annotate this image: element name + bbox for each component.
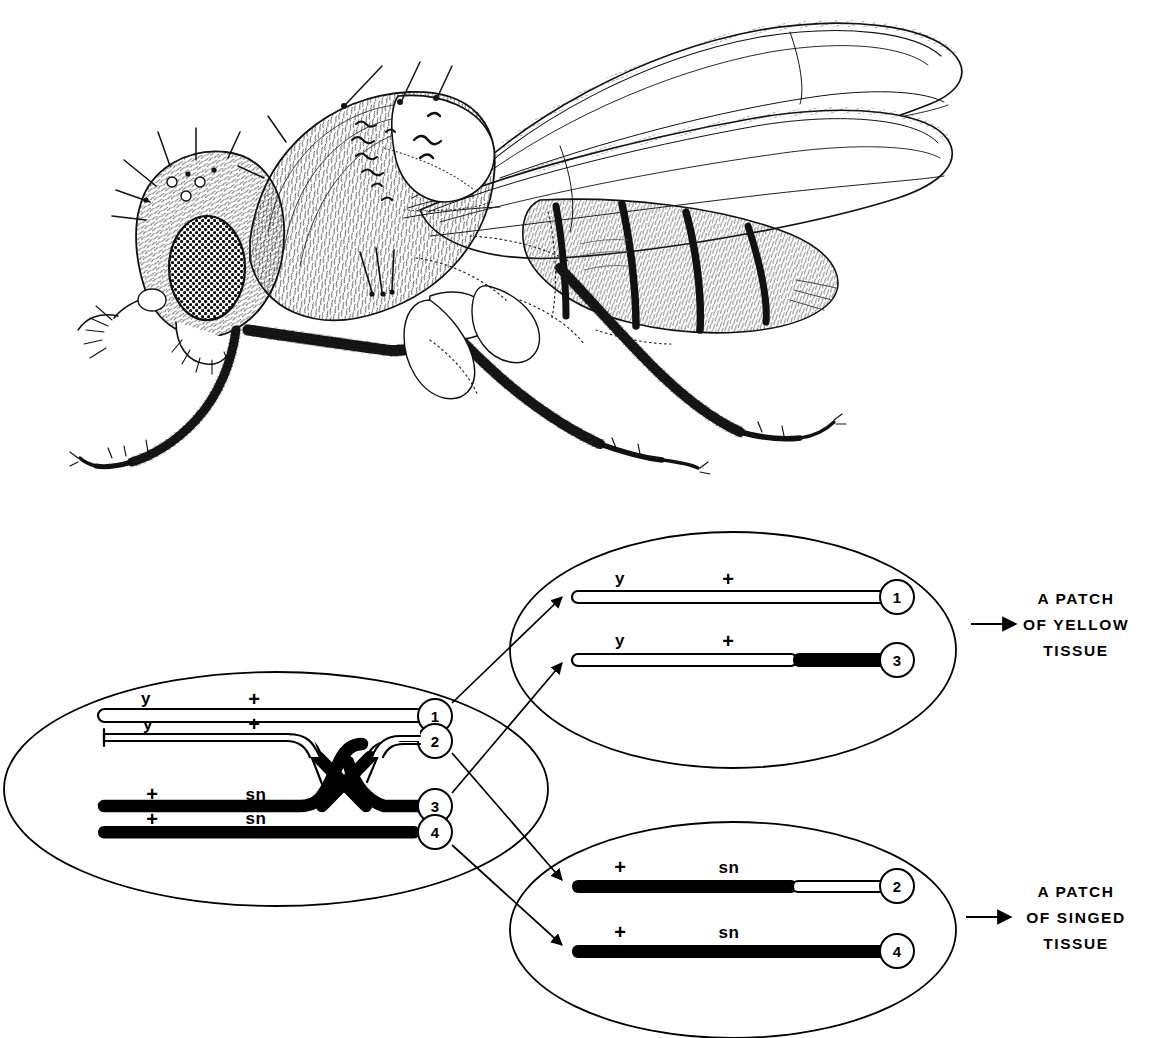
parent-chromatid-number-2: 2	[431, 733, 439, 750]
singed-daughter-number-4: 4	[893, 943, 902, 960]
parent-marker-4-right: sn	[246, 809, 267, 828]
parent-marker-1-left: y	[141, 689, 151, 708]
figure-canvas: 1 2 3 4 y + y + + sn + sn 1 y + 3 y +	[0, 0, 1163, 1038]
yellow-tissue-caption: A PATCH OF YELLOW TISSUE	[1023, 590, 1129, 659]
parent-marker-4-left: +	[146, 808, 158, 830]
parent-chromatid-number-3: 3	[431, 798, 439, 815]
singed-daughter-marker-2-right: sn	[719, 858, 740, 877]
yellow-daughter-marker-1-right: +	[722, 568, 734, 590]
arrow-1-to-yellow	[452, 597, 562, 703]
singed-caption-line-3: TISSUE	[1043, 935, 1109, 952]
singed-daughter-marker-4-right: sn	[719, 923, 740, 942]
singed-daughter-number-2: 2	[893, 878, 901, 895]
yellow-daughter-marker-3-right: +	[722, 630, 734, 652]
parent-chromatid-number-1: 1	[431, 708, 439, 725]
yellow-daughter-marker-3-left: y	[615, 631, 625, 650]
parent-cell-ellipse	[4, 672, 548, 906]
parent-marker-3-right: sn	[246, 785, 267, 804]
parent-marker-2-right: +	[248, 713, 260, 735]
singed-tissue-caption: A PATCH OF SINGED TISSUE	[1026, 883, 1126, 952]
yellow-daughter-number-1: 1	[893, 589, 901, 606]
singed-caption-line-2: OF SINGED	[1026, 909, 1126, 926]
yellow-daughter-marker-1-left: y	[615, 569, 625, 588]
parent-chromatid-number-4: 4	[431, 824, 440, 841]
yellow-caption-line-3: TISSUE	[1043, 642, 1109, 659]
singed-caption-line-1: A PATCH	[1037, 883, 1114, 900]
singed-daughter-marker-2-left: +	[614, 856, 626, 878]
yellow-caption-line-1: A PATCH	[1037, 590, 1114, 607]
parent-marker-1-right: +	[248, 688, 260, 710]
yellow-daughter-number-3: 3	[893, 652, 901, 669]
parent-marker-3-left: +	[146, 783, 158, 805]
yellow-caption-line-2: OF YELLOW	[1023, 616, 1129, 633]
singed-daughter-marker-4-left: +	[614, 921, 626, 943]
recombination-diagram: 1 2 3 4 y + y + + sn + sn 1 y + 3 y +	[0, 0, 1163, 1038]
parent-marker-2-left: y	[143, 715, 153, 734]
